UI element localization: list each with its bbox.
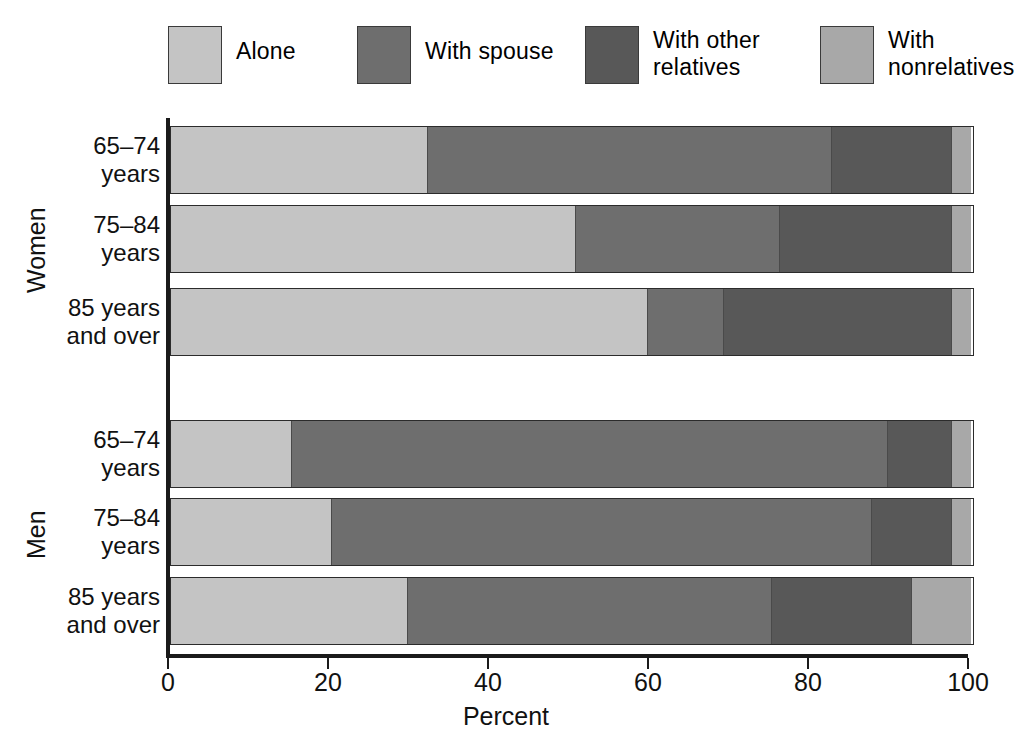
bar-segment[interactable] [575,206,779,272]
bar-segment[interactable] [951,421,971,487]
bar-segment[interactable] [427,127,831,193]
bar-segment[interactable] [951,499,971,565]
bar-segment[interactable] [171,127,427,193]
bar-row[interactable] [170,577,974,645]
x-tick-label-20: 20 [314,668,342,697]
bar-row[interactable] [170,205,974,273]
group-label-women: Women [22,175,51,325]
bar-row[interactable] [170,420,974,488]
bar-segment[interactable] [951,127,971,193]
bar-row[interactable] [170,126,974,194]
bar-segment[interactable] [771,578,911,644]
bar-segment[interactable] [951,206,971,272]
bar-segment[interactable] [911,578,971,644]
row-label: 65–74 years [20,426,160,482]
bar-segment[interactable] [291,421,887,487]
bar-segment[interactable] [171,421,291,487]
bar-segment[interactable] [951,289,971,355]
y-axis-line [166,118,170,656]
bar-row[interactable] [170,498,974,566]
bar-segment[interactable] [171,206,575,272]
x-tick-label-100: 100 [947,668,989,697]
bar-segment[interactable] [647,289,723,355]
x-tick-label-60: 60 [634,668,662,697]
bar-segment[interactable] [831,127,951,193]
bar-segment[interactable] [171,578,407,644]
row-label: 85 years and over [20,583,160,639]
x-axis-line [166,654,968,658]
bar-segment[interactable] [779,206,951,272]
x-tick-label-40: 40 [474,668,502,697]
bar-segment[interactable] [871,499,951,565]
bar-segment[interactable] [723,289,951,355]
group-label-men: Men [22,480,51,590]
bar-segment[interactable] [887,421,951,487]
bar-segment[interactable] [171,499,331,565]
bar-segment[interactable] [407,578,771,644]
x-tick-label-80: 80 [794,668,822,697]
bar-row[interactable] [170,288,974,356]
x-axis-title: Percent [0,702,1012,731]
x-tick-label-0: 0 [161,668,175,697]
bar-segment[interactable] [171,289,647,355]
bar-segment[interactable] [331,499,871,565]
